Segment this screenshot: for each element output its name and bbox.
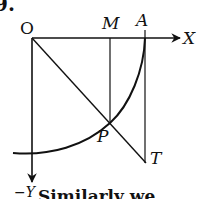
caption-fragment: Similarly we: [38, 188, 155, 199]
label-P: P: [97, 128, 108, 145]
label-X: X: [183, 30, 195, 47]
label-M: M: [102, 15, 119, 32]
label-T: T: [150, 150, 161, 167]
label-origin: O: [20, 20, 34, 37]
label-A: A: [136, 12, 148, 29]
label-neg-Y: −Y: [14, 185, 35, 199]
problem-number: 9.: [0, 0, 15, 14]
line-O-T: [32, 38, 146, 163]
